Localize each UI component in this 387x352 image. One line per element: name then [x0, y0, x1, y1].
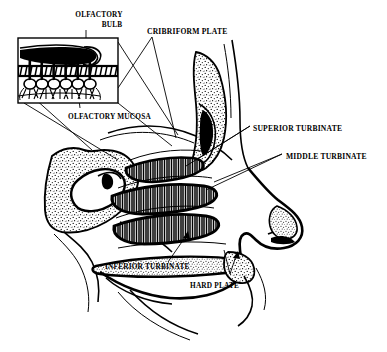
- leader-cribriform-plate: [118, 37, 152, 88]
- inset-tie-line-mid: [118, 103, 172, 146]
- label-olfactory-bulb-line1: OLFACTORY: [75, 10, 123, 19]
- leader-cribriform-plate-2: [152, 37, 176, 138]
- lip-contour-2: [256, 268, 266, 310]
- forehead-contour: [232, 40, 248, 168]
- nasal-cavity-diagram: OLFACTORY BULB CRIBRIFORM PLATE OLFACTOR…: [0, 0, 387, 352]
- inset-olfactory-magnification: [18, 38, 118, 103]
- cribriform-plate-band: [18, 66, 118, 76]
- label-olfactory-mucosa: OLFACTORY MUCOSA: [68, 112, 151, 121]
- nasopharynx-wall-2: [54, 234, 89, 312]
- label-hard-plate: HARD PLATE: [190, 281, 239, 290]
- inset-tie-line-top: [118, 42, 178, 135]
- leader-middle-turbinate-2: [214, 154, 282, 182]
- cranial-base-line-2: [100, 132, 194, 143]
- label-inferior-turbinate: INFERIOR TURBINATE: [105, 262, 190, 271]
- superior-turbinate-scroll: [126, 157, 204, 182]
- inferior-turbinate-scroll: [114, 214, 219, 244]
- label-olfactory-bulb-line2: BULB: [102, 20, 123, 29]
- label-middle-turbinate: MIDDLE TURBINATE: [286, 152, 367, 161]
- label-cribriform-plate: CRIBRIFORM PLATE: [147, 27, 227, 36]
- label-superior-turbinate: SUPERIOR TURBINATE: [253, 124, 342, 133]
- inset-tie-line-lower: [34, 98, 92, 150]
- anatomical-figure: OLFACTORY BULB CRIBRIFORM PLATE OLFACTOR…: [0, 0, 387, 352]
